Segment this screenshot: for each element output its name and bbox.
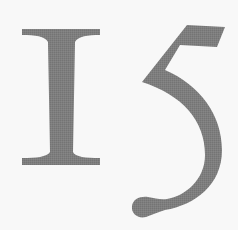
- glyph-five: [132, 25, 225, 217]
- glyph-i: [22, 29, 100, 165]
- numeral-image: I5: [0, 0, 238, 230]
